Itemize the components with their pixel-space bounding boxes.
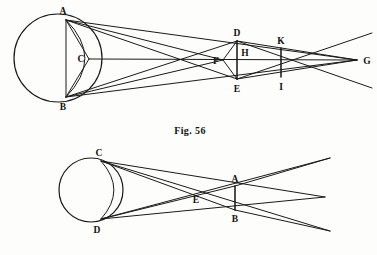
figure-56-caption-layer: Fig. 56	[0, 120, 377, 142]
ray-d-to-upper-right	[101, 158, 330, 219]
label-point-c: C	[78, 54, 85, 64]
ray-diverge-upper-right	[237, 33, 372, 79]
figure-lower-diagram: C D A B E	[0, 140, 377, 255]
ray-b-to-f	[66, 60, 223, 97]
label-point-e-lower: E	[193, 195, 199, 205]
label-point-a-lower: A	[232, 174, 239, 184]
ray-b-to-k-g	[66, 60, 357, 97]
label-point-d-lower: D	[94, 225, 101, 235]
curve-cd	[101, 161, 114, 219]
label-point-k: K	[277, 36, 285, 46]
ray-c-to-lower-right	[101, 161, 330, 231]
ray-a-to-i-g	[66, 20, 357, 60]
segment-cb	[66, 59, 89, 97]
ray-through-a-upper	[235, 158, 330, 186]
figure-56-diagram: A B C D E F H K I G	[0, 0, 377, 140]
circle-lower	[59, 158, 123, 222]
label-point-h: H	[241, 48, 249, 58]
ray-d-to-focus-lower	[101, 197, 325, 219]
label-point-i: I	[279, 82, 283, 92]
figure-caption-fig56: Fig. 56	[174, 125, 206, 136]
ray-a-to-f	[66, 20, 223, 60]
label-point-d: D	[234, 28, 241, 38]
label-point-a: A	[60, 6, 67, 16]
ray-through-b-lower	[235, 210, 330, 231]
label-point-c-lower: C	[96, 148, 103, 158]
label-point-f: F	[213, 56, 219, 66]
figure-sheet: A B C D E F H K I G Fig. 56 C D	[0, 0, 377, 255]
label-point-b: B	[60, 102, 67, 112]
label-point-e: E	[234, 84, 240, 94]
segment-fd	[223, 41, 237, 60]
ray-diverge-lower-right	[237, 41, 372, 88]
label-point-b-lower: B	[232, 214, 239, 224]
label-point-g: G	[363, 56, 371, 66]
